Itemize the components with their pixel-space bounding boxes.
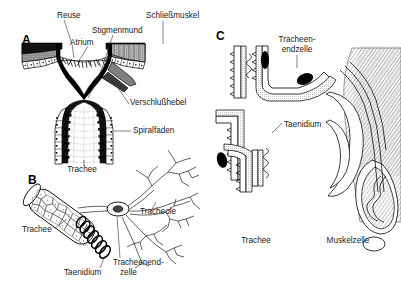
label-tracheenendzelle-c-line2: endzelle [282, 45, 313, 54]
tracheal-system-figure: A Reuse Atrium Stigmenmund Schließmuskel… [0, 0, 401, 289]
label-trachee-a: Trachee [67, 165, 97, 174]
label-taenidium-b: Taenidium [64, 268, 101, 277]
label-tracheole: Tracheole [140, 207, 177, 216]
tracheenendzelle-b [107, 202, 129, 216]
panel-label-c: C [216, 29, 225, 43]
label-taenidium-c: Taenidium [284, 120, 321, 129]
label-spiralfaden: Spiralfaden [133, 126, 175, 135]
label-tracheenendzelle-b-line1: Tracheenend- [113, 258, 164, 267]
label-tracheenendzelle-c-line1: Tracheen- [278, 35, 315, 44]
label-trachee-b: Trachee [22, 225, 52, 234]
label-verschlusshebel: Verschlußhebel [130, 98, 187, 107]
label-reuse: Reuse [57, 11, 81, 20]
panel-label-b: B [28, 173, 37, 187]
label-muskelzelle: Muskelzelle [327, 236, 370, 245]
label-stigmenmund: Stigmenmund [92, 26, 143, 35]
label-trachee-c: Trachee [241, 236, 271, 245]
panel-label-a: A [22, 33, 31, 47]
label-atrium: Atrium [70, 38, 94, 47]
label-tracheenendzelle-b-line2: zelle [120, 268, 137, 277]
label-schliessmuskel: Schließmuskel [146, 11, 199, 20]
